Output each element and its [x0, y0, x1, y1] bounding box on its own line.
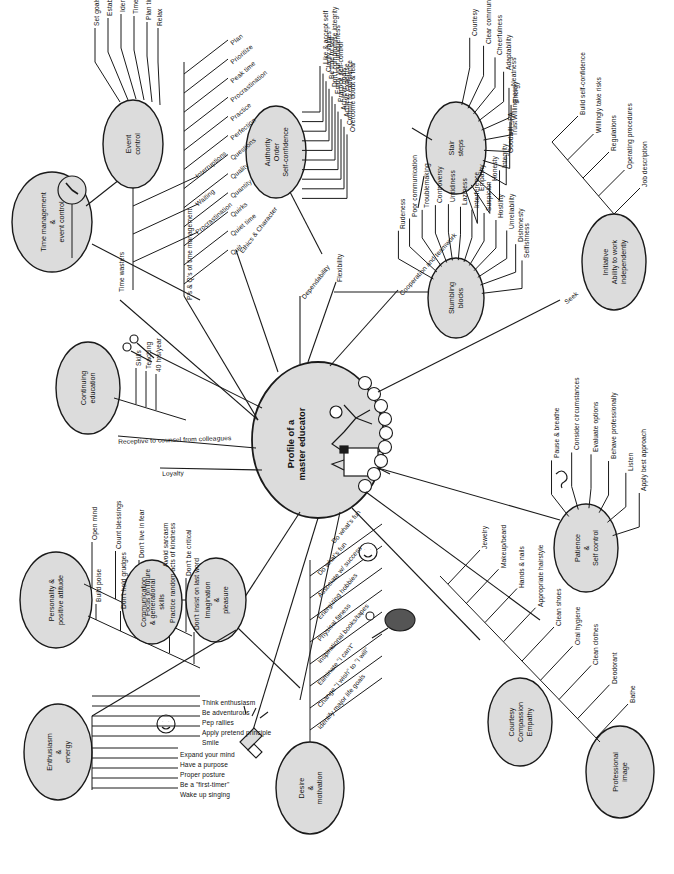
- node-label-line: &: [212, 581, 221, 618]
- enthusiasm-item-3: Have a purpose: [180, 761, 228, 768]
- personality-item-4: Don't be critical: [185, 529, 192, 576]
- node-label-line: Profile of a: [285, 408, 296, 481]
- professional-image-item-3: Appropriate hairstyle: [537, 544, 544, 607]
- stumbling-blocks-item-2: Troublemaking: [423, 163, 430, 208]
- node-label-line: Continuing: [79, 371, 88, 405]
- node-label-line: Courtesy: [507, 702, 516, 742]
- stumbling-blocks-item-8: Hostility: [497, 194, 504, 218]
- patience-item-0: Pause & breathe: [553, 408, 560, 459]
- event-control-item-1: Establish objectives: [106, 0, 113, 16]
- event-control-item-4: Plan time: [145, 0, 152, 20]
- patience-item-2: Evaluate options: [592, 402, 599, 452]
- node-label-line: Initiative: [601, 240, 610, 285]
- node-label-line: Stumbling: [447, 282, 456, 314]
- enthusiasm-item-0: Wake up singing: [180, 791, 230, 798]
- node-label-line: Self control: [591, 530, 600, 566]
- stumbling-blocks-item-7: Suspicion: [485, 181, 492, 211]
- event-control-item-3: Time log: [132, 0, 139, 14]
- node-label-line: & generational: [148, 577, 157, 627]
- node-label-line: Authority: [263, 127, 272, 177]
- node-label-line: &: [48, 192, 57, 252]
- stumbling-blocks-item-11: Selfishness: [523, 224, 530, 259]
- initiative-item-0: Build self-confidence: [579, 52, 586, 115]
- time-wasters-label: Time wasters: [118, 252, 125, 292]
- node-label-line: blocks: [456, 282, 465, 314]
- enthusiasm-item-1: Be a "first-timer": [180, 781, 229, 788]
- node-label-line: positive attitude: [56, 575, 65, 625]
- patience-item-4: Listen: [627, 453, 634, 471]
- node-label-line: Enthusiasm: [45, 733, 54, 771]
- node-desire-motivation: Desire&motivation: [297, 772, 324, 805]
- node-personality: Personality &positive attitude: [47, 575, 65, 625]
- enthusiasm-item-2: Proper posture: [180, 771, 225, 778]
- node-initiative: InitiativeAbility to workindependently: [601, 240, 628, 285]
- node-continuing-education: Continuingeducation: [79, 371, 97, 405]
- node-authority: AuthorityOrderSelf-confidence: [263, 127, 290, 177]
- ps-qs-label: P's & Q's of time management: [186, 209, 193, 300]
- node-label-line: Time management: [39, 192, 48, 252]
- personality-item-5: Build poise: [95, 569, 102, 602]
- node-label-line: &: [306, 772, 315, 805]
- node-label-line: Order: [272, 127, 281, 177]
- patience-item-5: Apply best approach: [640, 429, 647, 491]
- center-node-label: Profile of amaster educator: [285, 408, 307, 481]
- spoke-label-flexibility: Flexibility: [336, 254, 343, 282]
- personality-item-9: Don't insist on last word: [193, 558, 200, 630]
- node-label-line: event control: [57, 192, 66, 252]
- node-label-line: Communication: [139, 577, 148, 627]
- stumbling-blocks-item-9: Unreliability: [508, 193, 515, 228]
- node-stumbling-blocks: Stumblingblocks: [447, 282, 465, 314]
- professional-image-item-6: Clean clothes: [592, 623, 599, 664]
- node-time-management: Time management&event control: [39, 192, 66, 252]
- node-label-line: master educator: [296, 408, 307, 481]
- stair-steps-item-2: Cheerfulness: [496, 15, 503, 55]
- node-event-control: Eventcontrol: [124, 133, 142, 155]
- enthusiasm-item-6: Apply pretend principle: [202, 729, 271, 736]
- stumbling-blocks-item-0: Rudeness: [399, 198, 406, 229]
- event-control-item-0: Set goals: [93, 0, 100, 26]
- node-label-line: Patience: [573, 530, 582, 566]
- node-label-line: education: [88, 371, 97, 405]
- continuing-education-item-2: 40 hrs/year: [155, 338, 162, 372]
- stair-steps-item-0: Courtesy: [471, 9, 478, 36]
- enthusiasm-item-7: Pep rallies: [202, 719, 234, 726]
- initiative-item-3: Operating procedures: [626, 103, 633, 169]
- professional-image-item-1: Makeup/beard: [500, 525, 507, 568]
- patience-item-3: Behave professionally: [610, 392, 617, 459]
- node-imagination: Imagination&pleasure: [203, 581, 230, 618]
- node-label-line: Desire: [297, 772, 306, 805]
- node-label-line: Self-confidence: [281, 127, 290, 177]
- personality-item-3: Avoid sarcasm: [162, 523, 169, 567]
- stumbling-blocks-item-6: Interference: [473, 171, 480, 207]
- mindmap-canvas: Profile of amaster educatorEthics & Char…: [0, 0, 674, 874]
- node-label-line: &: [54, 733, 63, 771]
- node-label-line: pleasure: [221, 581, 230, 618]
- stumbling-blocks-item-1: Poor communication: [411, 155, 418, 217]
- event-control-item-2: Identify priorities: [119, 0, 126, 12]
- node-label-line: energy: [63, 733, 72, 771]
- node-label-line: skills: [157, 577, 166, 627]
- professional-image-item-0: Jewelry: [481, 526, 488, 549]
- enthusiasm-item-4: Expand your mind: [180, 751, 235, 758]
- event-control-item-5: Relax: [156, 9, 163, 26]
- node-label-line: independently: [619, 240, 628, 285]
- professional-image-item-5: Oral hygiene: [574, 607, 581, 646]
- node-label-line: &: [582, 530, 591, 566]
- enthusiasm-item-5: Smile: [202, 739, 219, 746]
- enthusiasm-item-9: Think enthusiasm: [202, 699, 255, 706]
- node-label-line: Empathy: [525, 702, 534, 742]
- stair-steps-item-9: Integrity: [501, 144, 508, 168]
- node-professional-image: Professionalimage: [611, 752, 629, 792]
- continuing-education-item-1: Teaching: [145, 342, 152, 369]
- professional-image-item-8: Bathe: [629, 685, 636, 703]
- continuing-education-item-0: Skills: [135, 350, 142, 366]
- professional-image-item-4: Clean shoes: [555, 588, 562, 626]
- node-label-line: image: [620, 752, 629, 792]
- node-label-line: steps: [456, 139, 465, 156]
- stair-steps-item-1: Clear communications: [485, 0, 492, 44]
- node-label-line: motivation: [315, 772, 324, 805]
- patience-item-1: Consider circumstances: [573, 378, 580, 451]
- enthusiasm-item-8: Be adventurous: [202, 709, 250, 716]
- professional-image-item-7: Deodorant: [611, 652, 618, 684]
- personality-item-1: Count blessings: [115, 501, 122, 549]
